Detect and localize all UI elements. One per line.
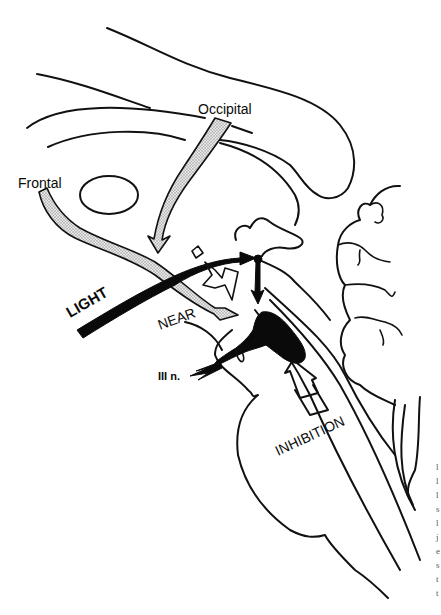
light-to-ew-arrow [251, 262, 264, 304]
cerebellum-folium-6 [380, 330, 384, 345]
pupillary-pathway-diagram: Occipital Frontal LIGHT NEAR III n. INHI… [0, 0, 441, 615]
fourth-ventricle-line [408, 397, 420, 500]
thalamus-oval [80, 176, 138, 214]
callosum-lower-right [220, 143, 299, 225]
margin-char: j [435, 532, 439, 542]
margin-char: t [436, 574, 439, 584]
occipital-pathway [148, 118, 231, 253]
margin-char: e [436, 546, 440, 556]
label-third-nerve: III n. [158, 370, 180, 382]
occipital-arrow-shaft [148, 118, 231, 253]
cerebellum-folium-3 [358, 250, 360, 265]
medulla-curve-2 [401, 405, 413, 505]
cerebellum-folium-5 [355, 317, 402, 335]
margin-char: s [436, 560, 440, 570]
label-near: NEAR [156, 304, 198, 332]
corpus-callosum-arc [27, 108, 205, 128]
ew-nucleus-mass [212, 312, 305, 368]
callosum-lower [48, 132, 185, 147]
cerebellum-folium-2 [338, 243, 390, 262]
pons-outline [215, 330, 388, 598]
label-frontal: Frontal [18, 175, 62, 191]
label-occipital: Occipital [198, 101, 252, 117]
margin-char: l [436, 476, 439, 486]
margin-text-fragment: l l l s l j e s t t [435, 462, 440, 598]
cerebellum-folium-4 [345, 284, 395, 296]
near-arrow-outline [192, 246, 203, 258]
cerebellum-folium-1 [370, 203, 383, 223]
margin-char: l [436, 490, 439, 500]
corpus-callosum-upper [37, 74, 150, 108]
margin-char: t [436, 588, 439, 598]
near-zigzag-arrow [203, 262, 238, 300]
third-nerve-arrow [190, 362, 222, 380]
margin-char: l [436, 462, 439, 472]
margin-char: s [436, 504, 440, 514]
tectum-outline [235, 218, 302, 256]
corpus-callosum-dash [232, 126, 252, 133]
margin-char: l [436, 518, 439, 528]
near-pathway [192, 246, 238, 300]
